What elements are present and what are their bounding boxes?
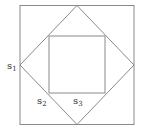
nested-squares-diagram: s1 s2 s3 (0, 0, 142, 139)
label-s1: s1 (7, 60, 17, 73)
label-s2: s2 (37, 95, 47, 108)
inner-square (49, 36, 105, 93)
outer-square (20, 6, 134, 125)
middle-diamond (20, 6, 134, 125)
label-s3: s3 (73, 95, 83, 108)
